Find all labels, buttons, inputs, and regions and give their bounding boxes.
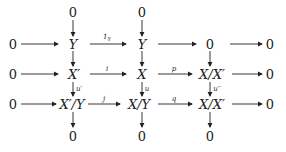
node-r1-zero-start: 0 (9, 38, 17, 51)
node-r3-X-mod-Y: X/Y (128, 98, 150, 111)
label-u-prime: u′ (76, 86, 82, 93)
label-i: i (106, 66, 108, 73)
node-bottom-zero-2: 0 (138, 130, 146, 143)
label-j: j (103, 96, 105, 103)
node-r1-zero: 0 (206, 38, 214, 51)
node-r2-X: X (137, 68, 146, 81)
node-top-zero-2: 0 (138, 6, 146, 19)
node-bottom-zero-3: 0 (206, 130, 214, 143)
label-p: p (172, 66, 176, 73)
node-top-zero-1: 0 (69, 6, 77, 19)
node-r1-zero-end: 0 (266, 38, 274, 51)
label-u: u (145, 86, 150, 93)
node-r3-zero-end: 0 (266, 98, 274, 111)
node-bottom-zero-1: 0 (69, 130, 77, 143)
node-r2-Xprime: X′ (68, 68, 80, 81)
node-r3-zero-start: 0 (9, 98, 17, 111)
label-identity-Y: 1Y (103, 34, 111, 42)
node-r2-zero-start: 0 (9, 68, 17, 81)
node-r3-X-mod-Xprime: X/X′ (199, 98, 225, 111)
label-q: q (172, 96, 176, 103)
commutative-diagram: 0 0 0 Y Y 0 0 0 X′ X X/X′ 0 0 X′/Y X/Y X… (0, 0, 286, 152)
label-u-double-prime: u′′ (213, 86, 221, 93)
node-r3-Xprime-mod-Y: X′/Y (59, 98, 84, 111)
node-r1-Y: Y (69, 38, 78, 51)
node-r2-X-mod-Xprime: X/X′ (199, 68, 225, 81)
node-r1-Y2: Y (138, 38, 147, 51)
node-r2-zero-end: 0 (266, 68, 274, 81)
